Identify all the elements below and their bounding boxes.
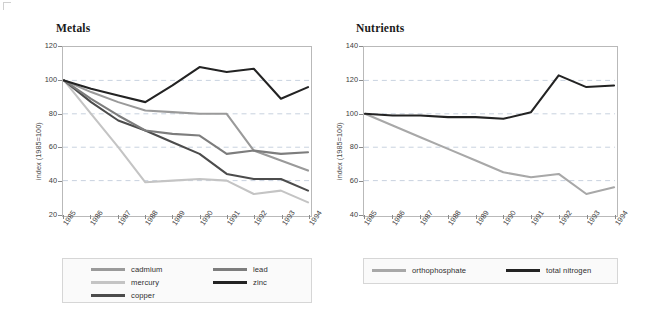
y-tick-label: 120 xyxy=(332,75,358,84)
legend-swatch-mercury xyxy=(91,281,125,283)
y-tick-label: 80 xyxy=(31,109,57,118)
y-tick-mark xyxy=(58,46,62,47)
y-tick-mark xyxy=(359,80,363,81)
legend-label: orthophosphate xyxy=(412,266,466,275)
plot-area-metals xyxy=(62,46,312,217)
y-tick-mark xyxy=(58,147,62,148)
y-tick-label: 140 xyxy=(332,41,358,50)
y-tick-label: 120 xyxy=(31,41,57,50)
series-line-total-nitrogen xyxy=(365,75,614,118)
y-tick-label: 100 xyxy=(332,109,358,118)
y-tick-mark xyxy=(359,114,363,115)
y-tick-mark xyxy=(58,181,62,182)
legend-swatch-lead xyxy=(213,268,247,270)
plot-area-nutrients xyxy=(363,46,618,217)
legend-nutrients: orthophosphatetotal nitrogen xyxy=(363,258,618,284)
legend-label: zinc xyxy=(253,278,267,287)
y-tick-mark xyxy=(359,181,363,182)
y-tick-label: 60 xyxy=(31,142,57,151)
y-tick-mark xyxy=(359,46,363,47)
y-tick-mark xyxy=(58,215,62,216)
y-tick-mark xyxy=(359,147,363,148)
plot-lines-metals xyxy=(63,47,311,216)
legend-label: cadmium xyxy=(131,265,163,274)
plot-lines-nutrients xyxy=(364,47,617,216)
y-tick-label: 80 xyxy=(332,142,358,151)
legend-item-cadmium[interactable]: cadmium xyxy=(91,265,163,274)
series-line-zinc xyxy=(64,67,308,102)
figure-canvas: Metals index (1985=100) cadmiummercuryco… xyxy=(0,0,658,317)
legend-label: total nitrogen xyxy=(546,266,591,275)
y-tick-mark xyxy=(58,80,62,81)
series-line-orthophosphate xyxy=(365,114,614,194)
y-tick-mark xyxy=(359,215,363,216)
legend-swatch-orthophosphate xyxy=(372,269,406,271)
y-tick-label: 40 xyxy=(332,210,358,219)
legend-item-zinc[interactable]: zinc xyxy=(213,278,267,287)
legend-label: lead xyxy=(253,265,268,274)
legend-item-mercury[interactable]: mercury xyxy=(91,278,159,287)
legend-label: copper xyxy=(131,291,155,300)
chart-panel-nutrients: Nutrients index (1985=100) orthophosphat… xyxy=(330,0,658,317)
legend-label: mercury xyxy=(131,278,159,287)
chart-title-nutrients: Nutrients xyxy=(356,22,404,34)
series-line-mercury xyxy=(64,80,308,202)
y-tick-label: 100 xyxy=(31,75,57,84)
legend-swatch-total-nitrogen xyxy=(506,269,540,271)
chart-panel-metals: Metals index (1985=100) cadmiummercuryco… xyxy=(0,0,330,317)
y-tick-label: 60 xyxy=(332,176,358,185)
legend-swatch-cadmium xyxy=(91,268,125,270)
legend-metals: cadmiummercurycopperleadzinc xyxy=(62,258,312,303)
y-tick-label: 40 xyxy=(31,176,57,185)
chart-title-metals: Metals xyxy=(56,22,90,34)
y-tick-label: 20 xyxy=(31,210,57,219)
legend-swatch-zinc xyxy=(213,281,247,283)
legend-item-orthophosphate[interactable]: orthophosphate xyxy=(372,266,466,275)
legend-item-total-nitrogen[interactable]: total nitrogen xyxy=(506,266,591,275)
legend-swatch-copper xyxy=(91,294,125,296)
legend-item-copper[interactable]: copper xyxy=(91,291,155,300)
legend-item-lead[interactable]: lead xyxy=(213,265,268,274)
y-tick-mark xyxy=(58,114,62,115)
